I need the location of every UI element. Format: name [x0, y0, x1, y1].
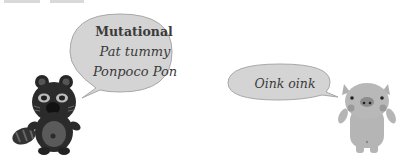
illustration-scene — [0, 0, 404, 167]
bubble-left-line2: Pat tummy — [80, 44, 190, 59]
bubble-left-line3: Ponpoco Pon — [80, 64, 190, 79]
bubble-left-title: Mutational — [84, 24, 184, 39]
bubble-right-text: Oink oink — [245, 76, 325, 91]
pig-icon — [336, 83, 398, 153]
raccoon-dog-icon — [10, 75, 82, 155]
